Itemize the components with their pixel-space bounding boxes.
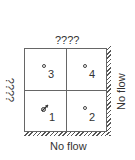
bottom-boundary-label: No flow <box>50 140 87 152</box>
cell-label-1: 1 <box>49 111 55 123</box>
cell-label-2: 2 <box>89 111 95 123</box>
observation-point-icon <box>83 106 87 110</box>
observation-point-icon <box>83 64 87 68</box>
grid-horizontal-divider <box>24 90 107 91</box>
no-flow-boundary-right <box>107 46 111 136</box>
observation-point-icon <box>42 64 46 68</box>
left-boundary-label: ???? <box>4 78 16 102</box>
cell-label-3: 3 <box>48 68 54 80</box>
top-boundary-label: ???? <box>55 34 79 46</box>
pumping-well-icon <box>40 104 49 113</box>
right-boundary-label: No flow <box>115 70 127 110</box>
no-flow-boundary-bottom <box>24 132 110 136</box>
cell-label-4: 4 <box>89 68 95 80</box>
